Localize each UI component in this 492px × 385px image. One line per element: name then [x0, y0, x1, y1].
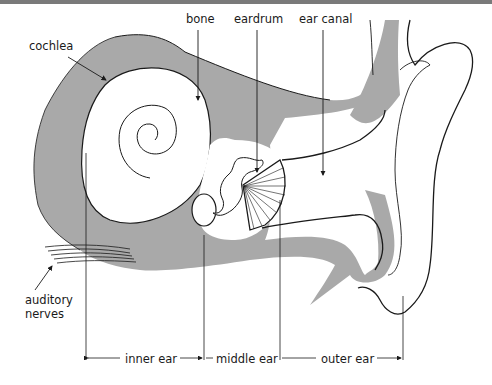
label-auditory-line2: nerves [25, 307, 73, 321]
label-auditory-line1: auditory [25, 293, 73, 307]
label-eardrum: eardrum [234, 12, 283, 26]
label-inner-ear: inner ear [122, 352, 180, 366]
pinna-fold [370, 20, 373, 75]
label-cochlea: cochlea [29, 39, 73, 53]
label-middle-ear: middle ear [215, 352, 279, 366]
outer-ear-tissue [350, 20, 400, 123]
label-ear-canal: ear canal [299, 12, 352, 26]
ear-diagram [0, 0, 492, 385]
label-auditory-nerves: auditory nerves [25, 293, 73, 321]
label-bone: bone [186, 12, 215, 26]
label-outer-ear: outer ear [318, 352, 377, 366]
oval-window [192, 194, 216, 226]
